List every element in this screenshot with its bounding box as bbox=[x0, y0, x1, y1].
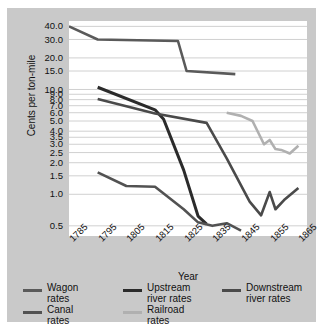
x-axis-title: Year bbox=[69, 271, 307, 282]
legend-swatch bbox=[222, 289, 241, 292]
y-tick-label: 2.5 bbox=[50, 148, 63, 157]
legend-label-line2: rates bbox=[47, 294, 78, 305]
x-axis-tick-labels: 178517951805181518251835184518551865 bbox=[69, 236, 319, 276]
legend-label: Upstreamriver rates bbox=[147, 283, 191, 304]
legend-swatch bbox=[23, 311, 42, 314]
legend-label-line1: Wagon bbox=[47, 283, 78, 294]
figure: 40.030.020.015.010.09.08.07.06.05.04.03.… bbox=[0, 0, 323, 336]
y-tick-label: 2.0 bbox=[50, 158, 63, 167]
legend-label-line2: river rates bbox=[147, 294, 191, 305]
legend-label-line1: Railroad bbox=[147, 305, 184, 316]
legend-label-line1: Upstream bbox=[147, 283, 191, 294]
legend-label: Railroadrates bbox=[147, 305, 184, 326]
plot-area bbox=[69, 21, 307, 236]
y-tick-label: 30.0 bbox=[45, 35, 64, 44]
y-tick-label: 15.0 bbox=[45, 66, 64, 75]
y-tick-label: 5.0 bbox=[50, 116, 63, 125]
y-axis-title: Cents per ton-mile bbox=[26, 26, 37, 166]
legend-label: Wagonrates bbox=[47, 283, 78, 304]
legend-swatch bbox=[23, 289, 42, 292]
series-line-0 bbox=[69, 26, 235, 74]
y-tick-label: 1.0 bbox=[50, 189, 63, 198]
line-chart-svg bbox=[69, 21, 307, 236]
legend-label-line2: rates bbox=[147, 316, 184, 327]
legend-label-line1: Downstream bbox=[246, 283, 302, 294]
legend-label: Downstreamriver rates bbox=[246, 283, 302, 304]
series-line-1 bbox=[98, 87, 207, 224]
chart-panel: 40.030.020.015.010.09.08.07.06.05.04.03.… bbox=[7, 8, 316, 322]
legend-label-line2: river rates bbox=[246, 294, 302, 305]
series-line-2 bbox=[98, 99, 299, 215]
y-tick-label: 1.5 bbox=[50, 171, 63, 180]
legend-label: Canalrates bbox=[47, 305, 73, 326]
y-tick-label: 40.0 bbox=[45, 21, 64, 30]
chart-legend: WagonratesUpstreamriver ratesDownstreamr… bbox=[23, 285, 315, 329]
legend-swatch bbox=[123, 311, 142, 314]
y-tick-label: 20.0 bbox=[45, 53, 64, 62]
legend-swatch bbox=[123, 289, 142, 292]
series-line-4 bbox=[227, 113, 299, 154]
y-axis-tick-labels: 40.030.020.015.010.09.08.07.06.05.04.03.… bbox=[7, 21, 67, 236]
legend-label-line1: Canal bbox=[47, 305, 73, 316]
y-tick-label: 0.5 bbox=[50, 221, 63, 230]
legend-label-line2: rates bbox=[47, 316, 73, 327]
